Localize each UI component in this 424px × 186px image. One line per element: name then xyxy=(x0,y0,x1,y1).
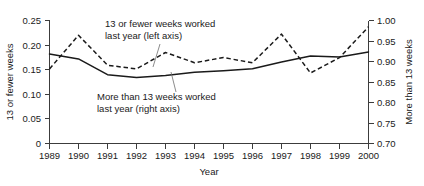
right-tick-label-6: 1.00 xyxy=(377,15,396,26)
x-tick-label-1991: 1991 xyxy=(97,150,118,161)
left-tick-label-2: 0.10 xyxy=(23,89,42,100)
x-tick-label-1999: 1999 xyxy=(329,150,350,161)
right-axis-title: More than 13 weeks xyxy=(403,39,414,125)
x-tick-label-2000: 2000 xyxy=(358,150,379,161)
chart-figure: 0 0.05 0.10 0.15 0.20 0.25 0.70 0.75 0.8… xyxy=(0,0,424,186)
right-tick-label-0: 0.70 xyxy=(377,138,396,149)
annotation-left-series: 13 or fewer weeks worked last year (left… xyxy=(105,18,215,67)
chart-canvas: 0 0.05 0.10 0.15 0.20 0.25 0.70 0.75 0.8… xyxy=(0,0,424,186)
x-tick-label-1995: 1995 xyxy=(213,150,234,161)
right-tick-label-3: 0.85 xyxy=(377,77,396,88)
annotation-left-series-line1: 13 or fewer weeks worked xyxy=(105,18,215,29)
left-axis-tick-labels: 0 0.05 0.10 0.15 0.20 0.25 xyxy=(23,15,42,149)
series-line-13-or-fewer-weeks xyxy=(50,52,369,78)
right-axis-tick-labels: 0.70 0.75 0.80 0.85 0.90 0.95 1.00 xyxy=(377,15,396,149)
series-line-more-than-13-weeks xyxy=(50,27,369,73)
annotation-right-series: More than 13 weeks worked last year (rig… xyxy=(97,72,216,114)
plot-frame xyxy=(50,21,369,144)
right-tick-label-4: 0.90 xyxy=(377,56,396,67)
axis-spines xyxy=(50,21,369,144)
x-tick-label-1997: 1997 xyxy=(271,150,292,161)
series-group xyxy=(50,27,369,78)
x-tick-label-1989: 1989 xyxy=(39,150,60,161)
annotation-right-series-line1: More than 13 weeks worked xyxy=(97,91,216,102)
left-axis-ticks xyxy=(45,21,50,144)
right-axis-ticks xyxy=(369,21,374,144)
x-tick-label-1992: 1992 xyxy=(126,150,147,161)
x-tick-label-1993: 1993 xyxy=(155,150,176,161)
annotation-left-series-line2: last year (left axis) xyxy=(105,30,182,41)
x-axis-ticks xyxy=(50,144,369,149)
left-tick-label-5: 0.25 xyxy=(23,15,42,26)
x-tick-label-1990: 1990 xyxy=(68,150,89,161)
right-tick-label-2: 0.80 xyxy=(377,97,396,108)
right-tick-label-5: 0.95 xyxy=(377,36,396,47)
right-tick-label-1: 0.75 xyxy=(377,118,396,129)
left-tick-label-3: 0.15 xyxy=(23,64,42,75)
x-tick-label-1996: 1996 xyxy=(242,150,263,161)
x-axis-title: Year xyxy=(199,166,218,177)
annotation-right-series-line2: last year (right axis) xyxy=(97,103,180,114)
x-axis-tick-labels: 1989 1990 1991 1992 1993 1994 1995 1996 … xyxy=(39,150,379,161)
x-tick-label-1998: 1998 xyxy=(300,150,321,161)
left-tick-label-1: 0.05 xyxy=(23,113,42,124)
x-tick-label-1994: 1994 xyxy=(184,150,205,161)
left-axis-title: 13 or fewer weeks xyxy=(4,43,15,120)
left-tick-label-0: 0 xyxy=(36,138,41,149)
left-tick-label-4: 0.20 xyxy=(23,40,42,51)
